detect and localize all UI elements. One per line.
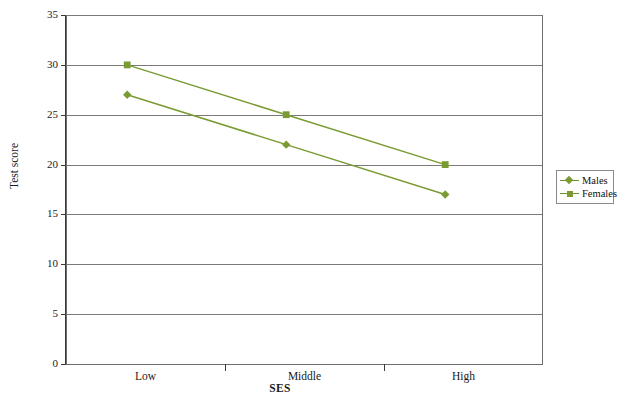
data-point-males-low[interactable] bbox=[123, 91, 131, 99]
credit-wrapper: © Cengage Learning bbox=[620, 318, 630, 408]
y-tick-label-35: 35 bbox=[18, 9, 58, 20]
y-tick-label-25: 25 bbox=[18, 109, 58, 120]
y-tick-label-10: 10 bbox=[18, 258, 58, 269]
data-point-females-middle[interactable] bbox=[283, 111, 290, 118]
x-tick-mark-1 bbox=[225, 364, 226, 371]
y-tick-label-5: 5 bbox=[18, 308, 58, 319]
series-plot bbox=[66, 15, 543, 364]
x-axis-line bbox=[66, 364, 543, 365]
series-males bbox=[123, 91, 449, 199]
square-marker-icon bbox=[560, 188, 579, 199]
data-point-males-middle[interactable] bbox=[282, 140, 290, 148]
chart-legend: Males Females bbox=[556, 170, 614, 204]
legend-entry-males[interactable]: Males bbox=[560, 174, 609, 187]
x-axis-title: SES bbox=[0, 382, 560, 394]
data-point-males-high[interactable] bbox=[441, 190, 449, 198]
y-axis-title: Test score bbox=[8, 106, 20, 226]
diamond-marker-icon bbox=[560, 175, 579, 186]
data-point-females-low[interactable] bbox=[124, 62, 131, 69]
legend-label-females: Females bbox=[582, 188, 617, 199]
figure-container: 05101520253035 LowMiddleHigh SES Test sc… bbox=[0, 0, 636, 409]
data-point-females-high[interactable] bbox=[442, 161, 449, 168]
y-tick-label-15: 15 bbox=[18, 208, 58, 219]
y-tick-label-0: 0 bbox=[18, 358, 58, 369]
legend-label-males: Males bbox=[582, 175, 608, 186]
plot-area bbox=[66, 15, 543, 364]
faint-top-caption bbox=[22, 0, 492, 7]
y-tick-label-30: 30 bbox=[18, 59, 58, 70]
legend-entry-females[interactable]: Females bbox=[560, 187, 609, 200]
y-tick-label-20: 20 bbox=[18, 159, 58, 170]
x-tick-mark-2 bbox=[384, 364, 385, 371]
series-females bbox=[124, 62, 449, 169]
